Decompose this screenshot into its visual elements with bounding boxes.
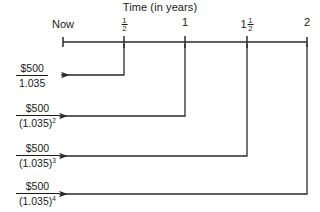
cash-flow-arrow-1 <box>61 44 124 75</box>
cash-flow-arrow-2 <box>59 44 185 116</box>
cash-flow-arrow-4 <box>59 44 307 194</box>
timeline-graphics <box>0 0 320 212</box>
timeline-diagram: Time (in years) Now 1 2 1 1 1 2 2 $500 1… <box>0 0 320 212</box>
cash-flow-arrow-3 <box>59 44 247 156</box>
